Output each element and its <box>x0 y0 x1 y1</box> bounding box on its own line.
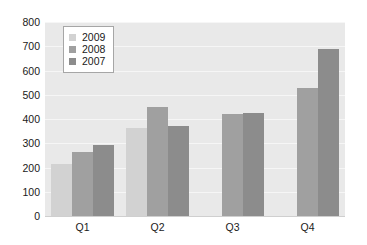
bar-group-q4 <box>270 22 345 216</box>
bar-group-q3 <box>195 22 270 216</box>
legend-item-2009[interactable]: 2009 <box>69 32 105 43</box>
bar-slot <box>126 22 147 216</box>
x-axis-tick-label: Q2 <box>120 218 195 238</box>
y-axis-tick-label: 200 <box>0 162 40 174</box>
bar-2009-q1[interactable] <box>51 164 72 216</box>
y-axis-tick-label: 800 <box>0 16 40 28</box>
bar-slot <box>297 22 318 216</box>
bar-slot <box>276 22 297 216</box>
legend-item-label: 2009 <box>82 32 105 43</box>
chart-legend: 200920082007 <box>63 26 114 73</box>
legend-item-label: 2007 <box>82 56 105 67</box>
x-axis-tick-label: Q4 <box>270 218 345 238</box>
y-axis-tick-label: 500 <box>0 89 40 101</box>
y-axis: 8007006005004003002001000 <box>0 22 40 216</box>
bar-2007-q2[interactable] <box>168 126 189 216</box>
y-axis-tick-label: 600 <box>0 65 40 77</box>
bar-2008-q1[interactable] <box>72 152 93 216</box>
bar-group-q2 <box>120 22 195 216</box>
bar-slot <box>243 22 264 216</box>
bar-2007-q1[interactable] <box>93 145 114 216</box>
x-axis-tick-label: Q1 <box>45 218 120 238</box>
legend-swatch-icon <box>69 58 76 65</box>
x-axis: Q1Q2Q3Q4 <box>45 218 345 238</box>
y-axis-tick-label: 300 <box>0 137 40 149</box>
bar-2009-q2[interactable] <box>126 128 147 217</box>
legend-item-label: 2008 <box>82 44 105 55</box>
bar-slot <box>147 22 168 216</box>
legend-swatch-icon <box>69 46 76 53</box>
y-axis-tick-label: 0 <box>0 210 40 222</box>
bar-slot <box>201 22 222 216</box>
bar-slot <box>168 22 189 216</box>
bar-2008-q4[interactable] <box>297 88 318 216</box>
bar-2007-q3[interactable] <box>243 113 264 216</box>
x-axis-tick-label: Q3 <box>195 218 270 238</box>
legend-item-2008[interactable]: 2008 <box>69 44 105 55</box>
bar-slot <box>222 22 243 216</box>
bar-2008-q2[interactable] <box>147 107 168 216</box>
bar-2007-q4[interactable] <box>318 49 339 216</box>
y-axis-tick-label: 700 <box>0 40 40 52</box>
legend-item-2007[interactable]: 2007 <box>69 56 105 67</box>
gridline <box>45 216 345 217</box>
bar-chart: 8007006005004003002001000 Q1Q2Q3Q4 20092… <box>0 0 367 245</box>
bar-slot <box>318 22 339 216</box>
legend-swatch-icon <box>69 34 76 41</box>
y-axis-tick-label: 400 <box>0 113 40 125</box>
y-axis-tick-label: 100 <box>0 186 40 198</box>
bar-2008-q3[interactable] <box>222 114 243 216</box>
